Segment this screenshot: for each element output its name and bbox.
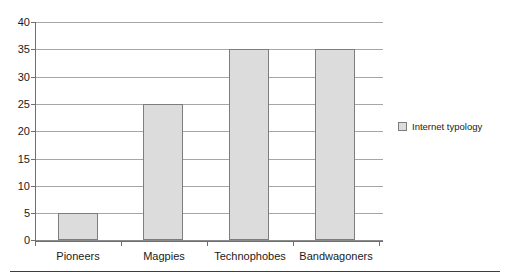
x-axis-line	[35, 241, 383, 242]
y-tick-label-15: 15	[18, 154, 30, 165]
y-tick-mark-10	[31, 186, 35, 187]
x-tick-label-bandwagoners: Bandwagoners	[299, 250, 372, 262]
bar-bandwagoners[interactable]	[315, 49, 355, 240]
y-tick-mark-20	[31, 131, 35, 132]
y-tick-mark-40	[31, 22, 35, 23]
y-tick-mark-35	[31, 49, 35, 50]
gridline-40	[35, 22, 383, 23]
y-tick-label-25: 25	[18, 99, 30, 110]
y-tick-label-0: 0	[24, 235, 30, 246]
y-tick-label-20: 20	[18, 126, 30, 137]
bar-chart-figure: 40 35 30 25 20 15 10 5	[0, 0, 510, 279]
bar-technophobes[interactable]	[229, 49, 269, 240]
y-tick-label-10: 10	[18, 181, 30, 192]
y-tick-label-30: 30	[18, 72, 30, 83]
bottom-divider	[10, 271, 500, 272]
y-axis-line	[35, 22, 36, 241]
x-tick-mark-3	[293, 241, 294, 246]
bar-pioneers[interactable]	[58, 213, 98, 240]
x-tick-mark-1	[121, 241, 122, 246]
legend-swatch-icon	[398, 122, 407, 131]
x-tick-label-technophobes: Technophobes	[214, 250, 286, 262]
chart-legend: Internet typology	[398, 121, 482, 132]
x-tick-label-pioneers: Pioneers	[56, 250, 99, 262]
x-tick-mark-2	[207, 241, 208, 246]
plot-area: 40 35 30 25 20 15 10 5	[35, 22, 383, 241]
y-tick-mark-5	[31, 213, 35, 214]
x-tick-mark-0	[35, 241, 36, 246]
x-tick-mark-4	[379, 241, 380, 246]
legend-label-internet-typology: Internet typology	[412, 121, 482, 132]
y-tick-mark-25	[31, 104, 35, 105]
x-tick-label-magpies: Magpies	[143, 250, 185, 262]
y-tick-label-35: 35	[18, 44, 30, 55]
bar-magpies[interactable]	[143, 104, 183, 240]
y-tick-label-5: 5	[24, 208, 30, 219]
y-tick-label-40: 40	[18, 17, 30, 28]
y-tick-mark-30	[31, 77, 35, 78]
y-tick-mark-15	[31, 159, 35, 160]
